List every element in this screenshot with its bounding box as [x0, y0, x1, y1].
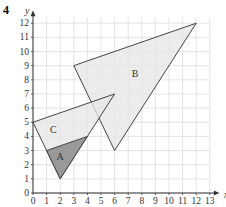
y-tick-label: 9 [24, 61, 29, 71]
shape-label-b: B [132, 68, 139, 79]
y-tick-label: 4 [24, 131, 29, 141]
x-tick-label: 10 [164, 196, 174, 206]
x-tick-label: 4 [85, 196, 90, 206]
y-tick-label: 0 [24, 188, 29, 198]
x-tick-label: 3 [71, 196, 76, 206]
y-tick-label: 6 [24, 103, 29, 113]
x-tick-label: 5 [99, 196, 104, 206]
x-tick-label: 2 [58, 196, 63, 206]
x-tick-label: 12 [191, 196, 201, 206]
x-tick-label: 8 [139, 196, 144, 206]
x-tick-label: 13 [205, 196, 215, 206]
x-tick-label: 7 [126, 196, 131, 206]
x-arrow-icon [214, 191, 219, 196]
y-tick-label: 7 [24, 89, 29, 99]
y-tick-label: 11 [20, 32, 29, 42]
x-tick-label: 9 [153, 196, 158, 206]
y-tick-label: 5 [24, 117, 29, 127]
y-tick-label: 3 [24, 146, 29, 156]
y-tick-label: 10 [20, 47, 30, 57]
y-arrow-icon [31, 10, 36, 16]
x-axis-label: x [223, 189, 226, 200]
y-tick-label: 1 [24, 174, 29, 184]
x-tick-label: 6 [112, 196, 117, 206]
triangle-b [74, 23, 196, 150]
y-tick-label: 12 [20, 18, 30, 28]
shape-label-c: C [50, 124, 57, 135]
y-tick-label: 2 [24, 160, 29, 170]
coordinate-grid: ABCxy0123456789101112130123456789101112 [0, 0, 226, 207]
x-tick-label: 11 [178, 196, 187, 206]
y-tick-label: 8 [24, 75, 29, 85]
y-axis-label: y [24, 5, 30, 16]
x-tick-label: 0 [31, 196, 36, 206]
x-tick-label: 1 [44, 196, 49, 206]
shape-label-a: A [57, 151, 65, 162]
